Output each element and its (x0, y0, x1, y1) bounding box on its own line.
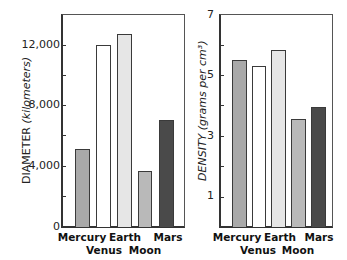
y-tick (61, 45, 66, 46)
y-tick (61, 75, 66, 76)
y-tick (219, 75, 224, 76)
y-tick (61, 105, 66, 106)
bar-earth (117, 34, 132, 227)
y-tick-label: 12,000 (20, 39, 60, 51)
y-tick (219, 105, 224, 106)
x-label-earth: Earth (264, 231, 296, 243)
x-label-venus: Venus (240, 244, 276, 256)
y-tick (219, 197, 224, 198)
y-tick (219, 136, 224, 137)
bar-moon (291, 119, 306, 227)
x-label-mars: Mars (305, 231, 334, 243)
bar-mars (159, 120, 174, 227)
x-label-mercury: Mercury (213, 231, 261, 243)
y-axis-label: DIAMETER (kilometers) (20, 57, 33, 184)
bar-mercury (75, 149, 90, 227)
bar-venus (252, 66, 266, 227)
y-tick (219, 166, 224, 167)
x-label-moon: Moon (282, 244, 314, 256)
x-label-mars: Mars (154, 231, 183, 243)
y-tick (61, 135, 66, 136)
y-tick (61, 166, 66, 167)
x-label-mercury: Mercury (58, 231, 106, 243)
bar-earth (271, 50, 286, 227)
y-tick-label: 7 (174, 9, 214, 21)
y-tick (61, 196, 66, 197)
y-axis-label: DENSITY (grams per cm³) (196, 40, 209, 181)
bar-moon (138, 171, 152, 227)
bar-mars (311, 107, 326, 227)
bar-mercury (232, 60, 247, 227)
y-tick-label: 0 (20, 221, 60, 233)
y-tick-label: 1 (174, 190, 214, 202)
x-label-earth: Earth (109, 231, 141, 243)
x-label-moon: Moon (129, 244, 161, 256)
bar-venus (96, 45, 111, 227)
y-tick (219, 45, 224, 46)
x-label-venus: Venus (86, 244, 122, 256)
